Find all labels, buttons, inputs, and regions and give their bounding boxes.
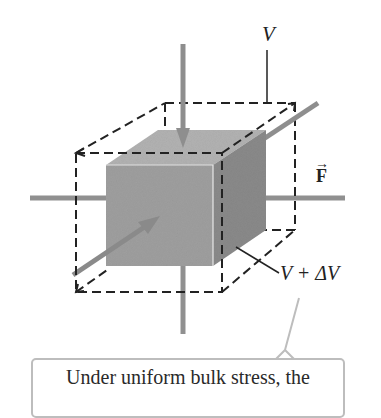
v-delta-v-leader-line [236,247,279,273]
cube-front-face [106,165,213,266]
final-volume-label: V + ΔV [280,262,339,285]
vertical-force-arrow-down [176,44,190,148]
corner-arrowhead-top-right [288,103,295,111]
force-vector-label: → F [316,166,327,187]
callout-text: Under uniform bulk stress, the [33,366,343,389]
initial-volume-label: V [262,22,275,47]
cube [106,130,266,266]
callout-pointer [276,298,299,359]
callout-box: Under uniform bulk stress, the [31,358,345,418]
diagonal-force-line-back [262,103,318,140]
vector-arrow-icon: → [315,156,329,172]
